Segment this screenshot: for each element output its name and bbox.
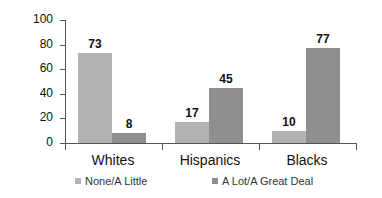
x-axis-label-hispanics: Hispanics <box>180 152 241 168</box>
legend-swatch-icon <box>75 178 81 184</box>
bar-value: 10 <box>282 115 295 129</box>
x-axis-label-whites: Whites <box>92 152 135 168</box>
y-tick-100: 100 <box>60 20 65 21</box>
x-tick-hispanics-blacks <box>259 144 260 150</box>
x-tick-whites-hispanics <box>162 144 163 150</box>
bar-value: 45 <box>219 72 232 86</box>
y-tick-20: 20 <box>60 118 65 119</box>
bar-chart-figure: Percentage Responding 100 80 60 40 20 0 … <box>0 0 382 198</box>
y-tick-60: 60 <box>60 69 65 70</box>
bar-value: 77 <box>316 32 329 46</box>
x-axis-line <box>65 143 357 144</box>
y-tick-40: 40 <box>60 94 65 95</box>
y-tick-label-60: 60 <box>40 61 53 75</box>
y-tick-label-0: 0 <box>46 135 53 149</box>
y-tick-80: 80 <box>60 45 65 46</box>
legend-label: A Lot/A Great Deal <box>222 175 313 187</box>
x-axis-label-blacks: Blacks <box>286 152 327 168</box>
x-tick-end <box>356 144 357 150</box>
plot-area: 100 80 60 40 20 0 73 8 17 45 <box>65 20 356 143</box>
y-tick-label-20: 20 <box>40 110 53 124</box>
bar-whites-none-a-little: 73 <box>78 53 112 143</box>
bar-hispanics-none-a-little: 17 <box>175 122 209 143</box>
x-tick-start <box>65 144 66 150</box>
y-tick-label-40: 40 <box>40 86 53 100</box>
legend-label: None/A Little <box>85 175 147 187</box>
legend-item-a-lot-a-great-deal: A Lot/A Great Deal <box>212 175 313 187</box>
y-tick-label-80: 80 <box>40 37 53 51</box>
bar-hispanics-a-lot-a-great-deal: 45 <box>209 88 243 143</box>
bar-blacks-none-a-little: 10 <box>272 131 306 143</box>
y-tick-label-100: 100 <box>33 12 53 26</box>
chart-legend: None/A Little A Lot/A Great Deal <box>0 175 382 191</box>
bar-value: 8 <box>126 117 133 131</box>
legend-swatch-icon <box>212 178 218 184</box>
bar-value: 17 <box>185 106 198 120</box>
legend-item-none-a-little: None/A Little <box>75 175 147 187</box>
bar-blacks-a-lot-a-great-deal: 77 <box>306 48 340 143</box>
bar-value: 73 <box>88 37 101 51</box>
bar-whites-a-lot-a-great-deal: 8 <box>112 133 146 143</box>
